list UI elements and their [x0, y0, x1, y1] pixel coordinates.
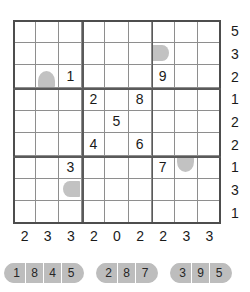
- grid-cell-r3c5[interactable]: [105, 65, 128, 88]
- grid-cell-r9c6[interactable]: [129, 201, 152, 224]
- grid-cell-r2c8[interactable]: [175, 43, 198, 66]
- row-clue-6: 2: [224, 133, 246, 156]
- legend-group-2[interactable]: 287: [96, 263, 158, 283]
- grid-cell-r1c7[interactable]: [152, 20, 175, 43]
- grid-cell-r1c2[interactable]: [36, 20, 59, 43]
- grid-cell-r8c3[interactable]: [59, 179, 82, 202]
- grid-cell-r1c9[interactable]: [198, 20, 221, 43]
- grid-cell-r1c4[interactable]: [82, 20, 105, 43]
- grid-cell-r4c4[interactable]: 2: [82, 88, 105, 111]
- legend-digit[interactable]: 2: [100, 263, 118, 283]
- grid-cell-r2c9[interactable]: [198, 43, 221, 66]
- grid-cell-r1c6[interactable]: [129, 20, 152, 43]
- stone-blob-icon: [152, 45, 169, 61]
- grid-cell-r5c8[interactable]: [175, 111, 198, 134]
- grid-cell-r9c8[interactable]: [175, 201, 198, 224]
- grid-cell-r4c1[interactable]: [13, 88, 36, 111]
- grid-cell-r3c1[interactable]: [13, 65, 36, 88]
- grid-cell-r9c2[interactable]: [36, 201, 59, 224]
- grid-cell-r6c4[interactable]: 4: [82, 133, 105, 156]
- puzzle-grid[interactable]: 192854637: [13, 20, 221, 224]
- grid-cell-r1c1[interactable]: [13, 20, 36, 43]
- grid-cell-r7c9[interactable]: [198, 156, 221, 179]
- grid-cell-r7c5[interactable]: [105, 156, 128, 179]
- grid-cell-r9c7[interactable]: [152, 201, 175, 224]
- grid-cell-r3c8[interactable]: [175, 65, 198, 88]
- grid-cell-r2c6[interactable]: [129, 43, 152, 66]
- grid-cell-r3c2[interactable]: [36, 65, 59, 88]
- grid-cell-r3c4[interactable]: [82, 65, 105, 88]
- grid-cell-r9c9[interactable]: [198, 201, 221, 224]
- grid-cell-r4c6[interactable]: 8: [129, 88, 152, 111]
- grid-cell-r7c6[interactable]: [129, 156, 152, 179]
- grid-cell-r1c8[interactable]: [175, 20, 198, 43]
- legend-digit[interactable]: 1: [8, 263, 26, 283]
- grid-cell-r8c2[interactable]: [36, 179, 59, 202]
- grid-cell-r3c6[interactable]: [129, 65, 152, 88]
- grid-cell-r2c7[interactable]: [152, 43, 175, 66]
- column-clue-9: 3: [198, 226, 221, 246]
- grid-cell-r3c9[interactable]: [198, 65, 221, 88]
- grid-cell-r3c3[interactable]: 1: [59, 65, 82, 88]
- grid-cell-r2c1[interactable]: [13, 43, 36, 66]
- legend-digit[interactable]: 8: [26, 263, 44, 283]
- grid-cell-r8c6[interactable]: [129, 179, 152, 202]
- grid-cell-r4c3[interactable]: [59, 88, 82, 111]
- grid-cell-r5c4[interactable]: [82, 111, 105, 134]
- grid-cell-r7c8[interactable]: [175, 156, 198, 179]
- legend-digit[interactable]: 5: [210, 263, 228, 283]
- grid-cell-r4c2[interactable]: [36, 88, 59, 111]
- legend-digit[interactable]: 3: [174, 263, 192, 283]
- grid-cell-r5c3[interactable]: [59, 111, 82, 134]
- grid-cell-r8c1[interactable]: [13, 179, 36, 202]
- grid-cell-r5c1[interactable]: [13, 111, 36, 134]
- grid-cell-r5c5[interactable]: 5: [105, 111, 128, 134]
- grid-cell-r4c7[interactable]: [152, 88, 175, 111]
- grid-cell-r9c3[interactable]: [59, 201, 82, 224]
- grid-cell-r3c7[interactable]: 9: [152, 65, 175, 88]
- grid-cell-r5c2[interactable]: [36, 111, 59, 134]
- grid-cell-r7c4[interactable]: [82, 156, 105, 179]
- legend-digit[interactable]: 8: [118, 263, 136, 283]
- grid-cell-r7c7[interactable]: 7: [152, 156, 175, 179]
- legend-digit[interactable]: 7: [136, 263, 154, 283]
- grid-cell-r9c1[interactable]: [13, 201, 36, 224]
- grid-cell-r8c5[interactable]: [105, 179, 128, 202]
- grid-cell-r6c7[interactable]: [152, 133, 175, 156]
- puzzle-root: 192854637 532122131 233202233 1845287395: [0, 0, 250, 292]
- grid-cell-r1c3[interactable]: [59, 20, 82, 43]
- grid-cell-r2c2[interactable]: [36, 43, 59, 66]
- grid-cell-r7c3[interactable]: 3: [59, 156, 82, 179]
- grid-cell-r4c8[interactable]: [175, 88, 198, 111]
- grid-cell-r6c6[interactable]: 6: [129, 133, 152, 156]
- grid-cell-r9c5[interactable]: [105, 201, 128, 224]
- column-clue-1: 2: [13, 226, 36, 246]
- grid-cell-r6c8[interactable]: [175, 133, 198, 156]
- legend-digit[interactable]: 5: [62, 263, 80, 283]
- grid-cell-r5c7[interactable]: [152, 111, 175, 134]
- grid-cell-r6c9[interactable]: [198, 133, 221, 156]
- grid-cell-r4c5[interactable]: [105, 88, 128, 111]
- grid-cell-r2c4[interactable]: [82, 43, 105, 66]
- grid-cell-r2c3[interactable]: [59, 43, 82, 66]
- grid-cell-r8c8[interactable]: [175, 179, 198, 202]
- legend-group-3[interactable]: 395: [170, 263, 232, 283]
- grid-cell-r9c4[interactable]: [82, 201, 105, 224]
- grid-cell-r8c9[interactable]: [198, 179, 221, 202]
- grid-cell-r8c7[interactable]: [152, 179, 175, 202]
- grid-cell-r6c1[interactable]: [13, 133, 36, 156]
- grid-cell-r7c2[interactable]: [36, 156, 59, 179]
- legend-digit[interactable]: 9: [192, 263, 210, 283]
- grid-cell-r4c9[interactable]: [198, 88, 221, 111]
- grid-cell-r7c1[interactable]: [13, 156, 36, 179]
- grid-cell-r6c2[interactable]: [36, 133, 59, 156]
- grid-cell-r8c4[interactable]: [82, 179, 105, 202]
- legend-group-1[interactable]: 1845: [4, 263, 84, 283]
- grid-cell-r6c3[interactable]: [59, 133, 82, 156]
- grid-cell-r5c9[interactable]: [198, 111, 221, 134]
- grid-cell-r6c5[interactable]: [105, 133, 128, 156]
- legend-digit[interactable]: 4: [44, 263, 62, 283]
- grid-cell-r2c5[interactable]: [105, 43, 128, 66]
- grid-cell-r5c6[interactable]: [129, 111, 152, 134]
- grid-cell-r1c5[interactable]: [105, 20, 128, 43]
